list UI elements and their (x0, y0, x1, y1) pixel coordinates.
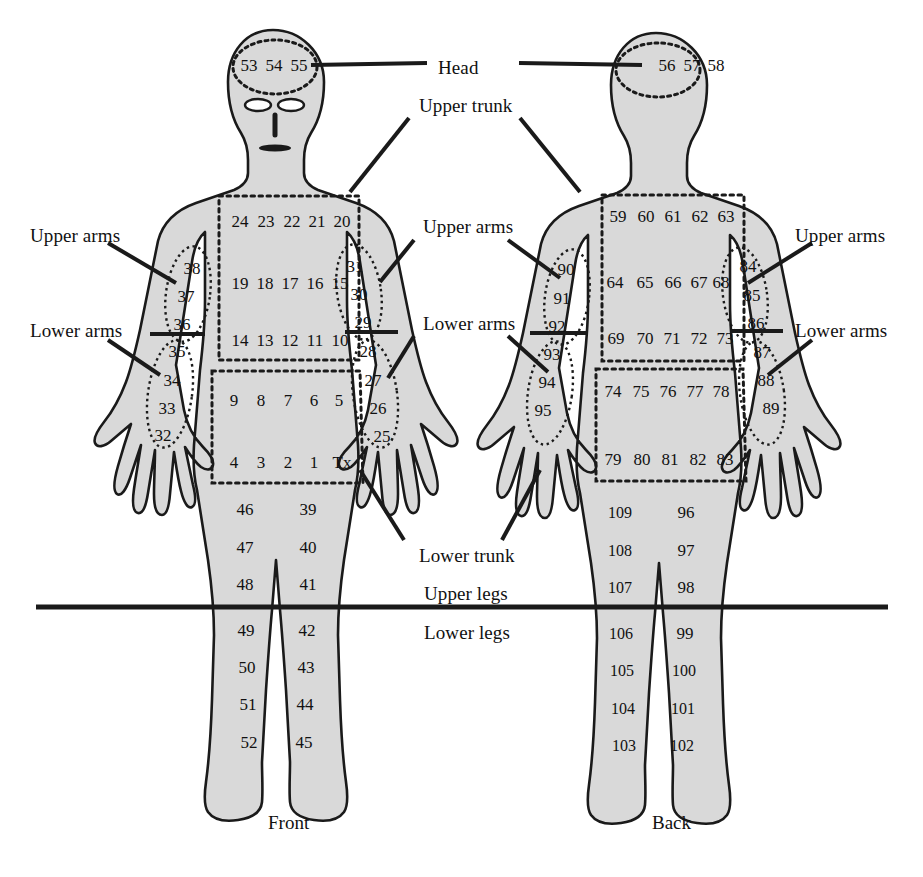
region-number-22[interactable]: 22 (284, 212, 301, 232)
region-number-72[interactable]: 72 (691, 329, 708, 349)
region-number-66[interactable]: 66 (665, 273, 682, 293)
region-number-27[interactable]: 27 (365, 371, 382, 391)
region-number-65[interactable]: 65 (637, 273, 654, 293)
region-number-5[interactable]: 5 (335, 391, 344, 411)
region-number-94[interactable]: 94 (539, 373, 556, 393)
region-number-69[interactable]: 69 (608, 329, 625, 349)
region-number-80[interactable]: 80 (634, 450, 651, 470)
region-number-93[interactable]: 93 (544, 345, 561, 365)
region-number-57[interactable]: 57 (684, 56, 701, 76)
region-number-90[interactable]: 90 (558, 260, 575, 280)
region-number-53[interactable]: 53 (241, 56, 258, 76)
region-number-97[interactable]: 97 (678, 541, 695, 561)
region-number-67[interactable]: 67 (691, 273, 708, 293)
region-number-88[interactable]: 88 (758, 371, 775, 391)
region-number-85[interactable]: 85 (744, 286, 761, 306)
region-number-61[interactable]: 61 (665, 207, 682, 227)
region-number-21[interactable]: 21 (309, 212, 326, 232)
region-number-49[interactable]: 49 (238, 621, 255, 641)
region-number-7[interactable]: 7 (284, 391, 293, 411)
region-number-26[interactable]: 26 (370, 399, 387, 419)
region-number-54[interactable]: 54 (266, 56, 283, 76)
region-number-42[interactable]: 42 (299, 621, 316, 641)
region-number-77[interactable]: 77 (687, 382, 704, 402)
region-number-31[interactable]: 31 (347, 257, 364, 277)
region-number-47[interactable]: 47 (237, 538, 254, 558)
region-number-30[interactable]: 30 (351, 285, 368, 305)
region-number-9[interactable]: 9 (230, 391, 239, 411)
region-number-44[interactable]: 44 (297, 695, 314, 715)
region-number-18[interactable]: 18 (257, 274, 274, 294)
region-number-78[interactable]: 78 (713, 382, 730, 402)
region-number-105[interactable]: 105 (610, 662, 634, 680)
region-number-76[interactable]: 76 (660, 382, 677, 402)
region-number-36[interactable]: 36 (174, 315, 191, 335)
region-number-79[interactable]: 79 (605, 450, 622, 470)
region-number-35[interactable]: 35 (169, 342, 186, 362)
region-number-75[interactable]: 75 (633, 382, 650, 402)
region-number-55[interactable]: 55 (291, 56, 308, 76)
region-number-43[interactable]: 43 (298, 658, 315, 678)
region-number-40[interactable]: 40 (300, 538, 317, 558)
region-number-91[interactable]: 91 (554, 289, 571, 309)
region-number-20[interactable]: 20 (334, 212, 351, 232)
region-number-100[interactable]: 100 (672, 662, 696, 680)
region-number-71[interactable]: 71 (664, 329, 681, 349)
region-number-16[interactable]: 16 (307, 274, 324, 294)
region-number-70[interactable]: 70 (637, 329, 654, 349)
region-number-Tx[interactable]: Tx (333, 453, 352, 473)
region-number-86[interactable]: 86 (748, 314, 765, 334)
region-number-4[interactable]: 4 (230, 453, 239, 473)
region-number-84[interactable]: 84 (740, 257, 757, 277)
region-number-10[interactable]: 10 (332, 331, 349, 351)
region-number-29[interactable]: 29 (355, 313, 372, 333)
region-number-19[interactable]: 19 (232, 274, 249, 294)
region-number-1[interactable]: 1 (310, 453, 319, 473)
region-number-83[interactable]: 83 (717, 450, 734, 470)
region-number-107[interactable]: 107 (608, 579, 632, 597)
region-number-82[interactable]: 82 (690, 450, 707, 470)
region-number-68[interactable]: 68 (713, 273, 730, 293)
region-number-32[interactable]: 32 (155, 426, 172, 446)
region-number-6[interactable]: 6 (310, 391, 319, 411)
region-number-60[interactable]: 60 (638, 207, 655, 227)
region-number-74[interactable]: 74 (605, 382, 622, 402)
region-number-52[interactable]: 52 (241, 733, 258, 753)
region-number-45[interactable]: 45 (296, 733, 313, 753)
region-number-59[interactable]: 59 (610, 207, 627, 227)
region-number-99[interactable]: 99 (677, 624, 694, 644)
region-number-87[interactable]: 87 (754, 343, 771, 363)
region-number-101[interactable]: 101 (671, 700, 695, 718)
region-number-58[interactable]: 58 (708, 56, 725, 76)
region-number-41[interactable]: 41 (300, 575, 317, 595)
region-number-64[interactable]: 64 (607, 273, 624, 293)
region-number-11[interactable]: 11 (307, 331, 323, 351)
region-number-17[interactable]: 17 (282, 274, 299, 294)
region-number-33[interactable]: 33 (159, 399, 176, 419)
region-number-50[interactable]: 50 (239, 658, 256, 678)
region-number-89[interactable]: 89 (763, 399, 780, 419)
region-number-62[interactable]: 62 (692, 207, 709, 227)
region-number-2[interactable]: 2 (284, 453, 293, 473)
region-number-96[interactable]: 96 (678, 503, 695, 523)
region-number-28[interactable]: 28 (360, 342, 377, 362)
region-number-39[interactable]: 39 (300, 500, 317, 520)
region-number-81[interactable]: 81 (662, 450, 679, 470)
region-number-25[interactable]: 25 (374, 427, 391, 447)
region-number-48[interactable]: 48 (237, 575, 254, 595)
region-number-13[interactable]: 13 (257, 331, 274, 351)
region-number-46[interactable]: 46 (237, 500, 254, 520)
region-number-63[interactable]: 63 (718, 207, 735, 227)
region-number-109[interactable]: 109 (608, 504, 632, 522)
region-number-95[interactable]: 95 (535, 401, 552, 421)
region-number-8[interactable]: 8 (257, 391, 266, 411)
region-number-23[interactable]: 23 (258, 212, 275, 232)
region-number-56[interactable]: 56 (659, 56, 676, 76)
region-number-38[interactable]: 38 (184, 259, 201, 279)
region-number-34[interactable]: 34 (164, 371, 181, 391)
region-number-108[interactable]: 108 (608, 542, 632, 560)
region-number-106[interactable]: 106 (609, 625, 633, 643)
region-number-51[interactable]: 51 (240, 695, 257, 715)
region-number-3[interactable]: 3 (257, 453, 266, 473)
region-number-12[interactable]: 12 (282, 331, 299, 351)
